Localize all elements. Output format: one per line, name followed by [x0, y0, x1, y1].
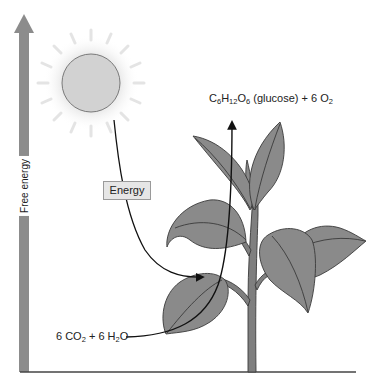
h2o-oxygen-text: O — [120, 330, 129, 342]
h2o-text: + 6 H — [86, 330, 116, 342]
photosynthesis-diagram — [0, 0, 374, 385]
oxygen-symbol: O — [237, 92, 246, 104]
carbon-symbol: C — [209, 92, 217, 104]
hydrogen-symbol: H — [221, 92, 229, 104]
free-energy-axis-label: Free energy — [19, 156, 30, 216]
energy-label-box: Energy — [103, 181, 151, 200]
o2-subscript: 2 — [329, 97, 333, 106]
sun-icon — [38, 30, 144, 136]
glucose-oxygen-text: (glucose) + 6 O — [250, 92, 329, 104]
co2-text: 6 CO — [56, 330, 82, 342]
reactants-equation: 6 CO2 + 6 H2O — [56, 330, 128, 344]
products-equation: C6H12O6 (glucose) + 6 O2 — [209, 92, 333, 106]
plant-illustration — [163, 122, 366, 372]
